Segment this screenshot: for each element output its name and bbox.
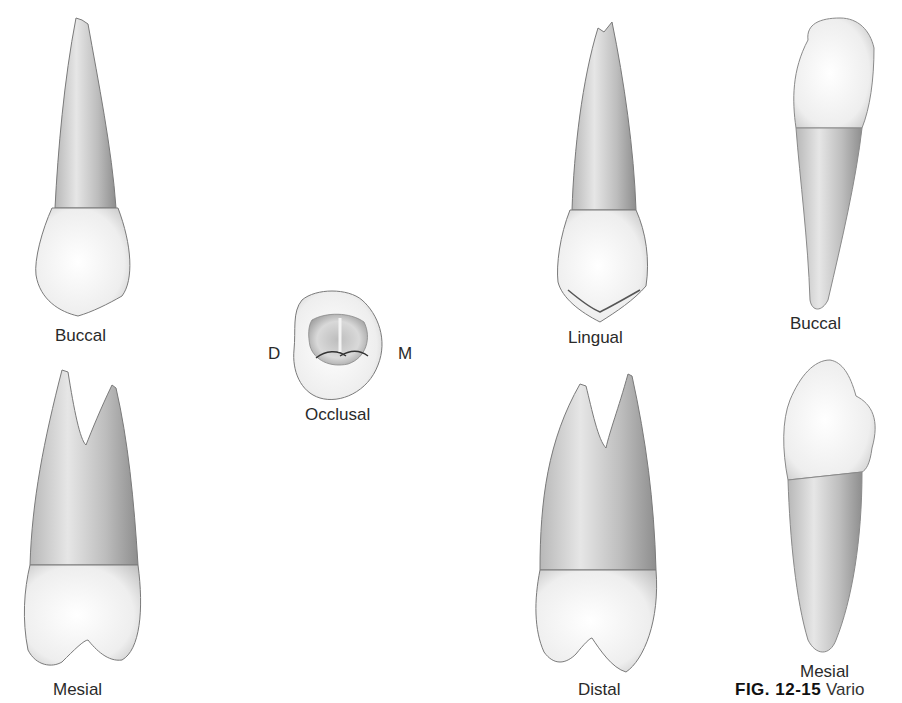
label-distal-direction: D [268,344,280,364]
mandibular-mesial-tooth [784,360,875,652]
label-maxillary-distal: Distal [578,680,621,700]
label-mandibular-mesial: Mesial [800,662,849,682]
maxillary-lingual-tooth [558,22,648,322]
tooth-figure: Buccal D M Occlusal Lingual Buccal Mesia… [0,0,902,703]
maxillary-buccal-tooth [36,18,130,316]
label-mesial-direction: M [398,344,412,364]
tooth-illustrations [0,0,902,703]
figure-number: FIG. 12-15 [735,680,821,699]
maxillary-mesial-tooth [24,370,140,665]
mandibular-buccal-tooth [794,18,874,309]
occlusal-tooth [294,291,382,400]
label-maxillary-buccal: Buccal [55,326,106,346]
label-occlusal: Occlusal [305,405,370,425]
label-mandibular-buccal: Buccal [790,314,841,334]
figure-caption: FIG. 12-15 Vario [735,680,864,700]
label-maxillary-mesial: Mesial [53,680,102,700]
label-maxillary-lingual: Lingual [568,328,623,348]
figure-caption-text: Vario [826,680,864,699]
maxillary-distal-tooth [536,374,657,672]
